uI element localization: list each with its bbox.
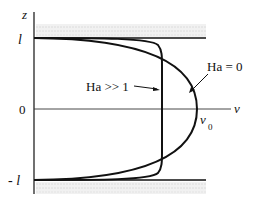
v-axis-label: v — [234, 101, 240, 116]
z-axis-label: z — [21, 7, 27, 22]
tick-label-top: l — [18, 32, 22, 47]
arrow-ha-large — [134, 86, 160, 91]
peak-velocity-label: v — [200, 112, 206, 127]
bottom-wall-hatch — [36, 182, 206, 194]
label-ha-large: Ha >> 1 — [86, 79, 129, 94]
label-ha-0: Ha = 0 — [207, 59, 243, 74]
arrow-ha-0 — [189, 74, 208, 93]
diagram-canvas: z l 0 - l v v 0 Ha = 0 Ha >> 1 — [0, 0, 257, 202]
tick-label-zero: 0 — [19, 102, 26, 117]
peak-velocity-subscript: 0 — [208, 122, 213, 132]
top-wall-hatch — [36, 24, 206, 37]
tick-label-bottom: - l — [8, 173, 20, 188]
